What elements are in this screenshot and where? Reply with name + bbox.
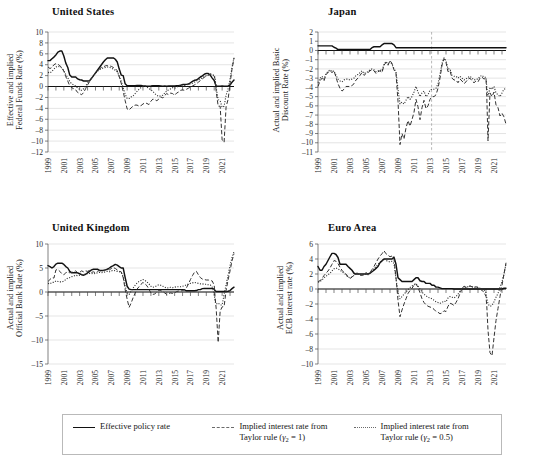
y-tick-label: –6 (34, 115, 43, 124)
chart-legend: Effective policy rateImplied interest ra… (62, 414, 502, 455)
x-tick-label: 2017 (186, 370, 195, 385)
x-tick-label: 2015 (171, 158, 180, 173)
legend-item-effective: Effective policy rate (73, 421, 212, 433)
x-tick-label: 2007 (107, 158, 116, 173)
x-tick-label: 2021 (490, 370, 499, 385)
x-tick-label: 2019 (202, 158, 211, 173)
x-tick-label: 2003 (76, 158, 85, 173)
chart-svg-euro-area: 6420–2–4–6–8–101999200120032005200720092… (266, 218, 543, 413)
y-tick-label: –12 (31, 148, 44, 157)
x-tick-label: 2001 (330, 158, 339, 173)
y-tick-label: 2 (309, 270, 313, 279)
y-tick-label: 1 (309, 37, 313, 46)
y-tick-label: 2 (39, 71, 43, 80)
x-tick-label: 2019 (202, 370, 211, 385)
series-line-dashed (318, 59, 506, 145)
series-line-dashed (48, 254, 234, 343)
y-tick-label: –2 (304, 300, 313, 309)
x-tick-label: 2019 (474, 158, 483, 173)
x-tick-label: 2001 (60, 158, 69, 173)
legend-swatch-dotted-icon (354, 423, 376, 433)
series-line-dashed (318, 251, 506, 356)
y-tick-label: 4 (309, 255, 313, 264)
x-tick-label: 2009 (394, 370, 403, 385)
x-tick-label: 2017 (458, 158, 467, 173)
y-axis-label-euro-area: Actual and impliedECB interest rate (%) (276, 228, 295, 368)
panel-title-japan: Japan (328, 6, 356, 17)
panel-united-states: United States Effective and impliedFeder… (0, 0, 272, 205)
y-tick-label: –1 (304, 55, 313, 64)
chart-svg-united-states: 1086420–2–4–6–8–10–121999200120032005200… (0, 0, 272, 205)
x-tick-label: 2007 (378, 370, 387, 385)
y-tick-label: –10 (301, 138, 314, 147)
legend-label: Effective policy rate (100, 421, 170, 432)
series-line-solid (318, 253, 506, 289)
x-tick-label: 2005 (362, 370, 371, 385)
x-tick-label: 2013 (155, 158, 164, 173)
y-tick-label: –8 (34, 126, 43, 135)
y-tick-label: –4 (304, 83, 313, 92)
chart-svg-united-kingdom: 1050–5–10–151999200120032005200720092011… (0, 218, 272, 413)
x-tick-label: 2009 (123, 158, 132, 173)
x-tick-label: 1999 (44, 158, 53, 173)
y-tick-label: 6 (309, 240, 313, 249)
y-tick-label: –8 (304, 345, 313, 354)
y-tick-label: –10 (31, 137, 44, 146)
x-tick-label: 2005 (362, 158, 371, 173)
panel-japan: Japan Actual and implied BasicDiscount R… (266, 0, 543, 205)
y-tick-label: –4 (304, 315, 313, 324)
x-tick-label: 2011 (410, 370, 419, 385)
x-tick-label: 2009 (394, 158, 403, 173)
x-tick-label: 2003 (76, 370, 85, 385)
series-line-dotted (48, 58, 234, 108)
x-tick-label: 2021 (218, 158, 227, 173)
x-tick-label: 2009 (123, 370, 132, 385)
y-tick-label: –15 (31, 360, 44, 369)
legend-swatch-solid-icon (73, 423, 95, 433)
legend-item-taylor_g1: Implied interest rate fromTaylor rule (γ… (212, 421, 353, 443)
y-tick-label: 2 (309, 28, 313, 37)
series-line-solid (48, 263, 234, 291)
x-tick-label: 2005 (91, 370, 100, 385)
y-tick-label: 10 (35, 240, 43, 249)
y-tick-label: 4 (39, 60, 43, 69)
x-tick-label: 2015 (442, 370, 451, 385)
x-tick-label: 2001 (60, 370, 69, 385)
x-tick-label: 2017 (458, 370, 467, 385)
series-line-dotted (318, 259, 506, 306)
legend-swatch-dashed-icon (212, 423, 234, 433)
y-tick-label: –10 (301, 360, 314, 369)
y-tick-label: 8 (39, 39, 43, 48)
chart-svg-japan: 210–1–2–3–4–5–6–7–8–9–10–111999200120032… (266, 0, 543, 205)
y-tick-label: –5 (34, 312, 43, 321)
y-tick-label: 0 (39, 288, 43, 297)
y-tick-label: –4 (34, 104, 43, 113)
x-tick-label: 2011 (139, 158, 148, 173)
y-tick-label: –2 (304, 65, 313, 74)
y-tick-label: 0 (39, 82, 43, 91)
x-tick-label: 2003 (346, 158, 355, 173)
legend-label: Implied interest rate fromTaylor rule (γ… (381, 421, 469, 443)
y-tick-label: 0 (309, 285, 313, 294)
series-line-dashed (48, 58, 234, 142)
x-tick-label: 1999 (44, 370, 53, 385)
legend-label: Implied interest rate fromTaylor rule (γ… (239, 421, 327, 443)
y-axis-label-text-uk: Actual and impliedOfficial Bank Rate (%) (6, 259, 24, 337)
y-axis-label-text-ea: Actual and impliedECB interest rate (%) (276, 262, 294, 334)
panel-title-united-kingdom: United Kingdom (52, 222, 130, 233)
x-tick-label: 2021 (490, 158, 499, 173)
y-tick-label: 5 (39, 264, 43, 273)
panel-united-kingdom: United Kingdom Actual and impliedOfficia… (0, 218, 272, 413)
x-tick-label: 2011 (410, 158, 419, 173)
y-axis-label-japan: Actual and implied BasicDiscount Rate (%… (272, 20, 291, 160)
y-tick-label: –8 (304, 120, 313, 129)
panel-euro-area: Euro Area Actual and impliedECB interest… (266, 218, 543, 413)
x-tick-label: 1999 (314, 370, 323, 385)
x-tick-label: 2013 (155, 370, 164, 385)
series-line-solid (48, 51, 234, 86)
legend-item-taylor_g05: Implied interest rate fromTaylor rule (γ… (354, 421, 493, 443)
x-tick-label: 1999 (314, 158, 323, 173)
x-tick-label: 2013 (426, 370, 435, 385)
series-line-dotted (318, 58, 506, 104)
y-tick-label: –10 (31, 336, 44, 345)
